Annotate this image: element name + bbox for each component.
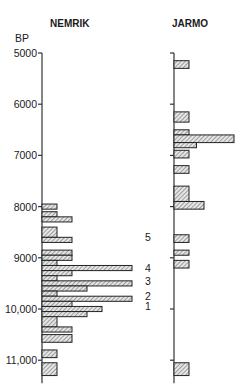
histogram-bar — [42, 204, 57, 209]
histogram-bar — [42, 265, 132, 270]
histogram-bar — [42, 363, 57, 376]
histogram-bar — [174, 201, 204, 209]
histogram-bar — [174, 143, 197, 148]
histogram-bar — [174, 150, 189, 158]
nemrik-title: NEMRIK — [50, 18, 90, 29]
phase-number-label: 4 — [145, 262, 151, 274]
histogram-bar — [174, 166, 189, 174]
y-tick-label: 9000 — [14, 252, 38, 264]
histogram-bar — [174, 250, 189, 255]
y-tick-label: 11,000 — [6, 354, 37, 366]
histogram-bar — [174, 112, 189, 122]
jarmo-title: JARMO — [172, 18, 208, 29]
y-tick-label: 10,000 — [5, 303, 37, 315]
phase-number-label: 1 — [145, 300, 151, 312]
histogram-bar — [174, 186, 189, 201]
histogram-bar — [174, 61, 189, 69]
histogram-bar — [42, 276, 57, 281]
histogram-bar — [42, 312, 87, 317]
histogram-bar — [42, 291, 57, 296]
histogram-bar — [42, 237, 72, 242]
phase-number-label: 5 — [145, 231, 151, 243]
jarmo-histogram — [170, 53, 234, 383]
histogram-bar — [42, 301, 72, 306]
histogram-bar — [42, 286, 87, 291]
histogram-bar — [42, 255, 72, 260]
y-tick-label: 6000 — [14, 98, 38, 110]
y-tick-label: 7000 — [14, 149, 38, 161]
histogram-bar — [42, 227, 57, 237]
histogram-bar — [174, 135, 234, 143]
histogram-bar — [42, 271, 72, 276]
histogram-bar — [42, 296, 132, 301]
y-tick-label: 8000 — [14, 201, 38, 213]
histogram-bar — [42, 217, 72, 222]
histogram-bar — [42, 250, 72, 255]
histogram-bar — [42, 306, 102, 311]
y-tick-label: 5000 — [14, 47, 38, 59]
histogram-bar — [42, 260, 57, 265]
histogram-bar — [42, 335, 72, 343]
histogram-bar — [174, 260, 189, 268]
histogram-bar — [42, 327, 72, 332]
histogram-bar — [174, 363, 189, 376]
histogram-bar — [174, 130, 189, 135]
histogram-bar — [42, 317, 57, 327]
nemrik-histogram: 5000600070008000900010,00011,00054321 — [5, 47, 151, 383]
histogram-bar — [42, 281, 132, 286]
histogram-bar — [42, 350, 57, 358]
bp-axis-label: BP — [15, 32, 29, 44]
histogram-bar — [174, 235, 189, 243]
histogram-bar — [42, 212, 57, 217]
radiocarbon-histogram-chart: NEMRIK JARMO BP 5000600070008000900010,0… — [0, 0, 246, 388]
phase-number-label: 3 — [145, 275, 151, 287]
